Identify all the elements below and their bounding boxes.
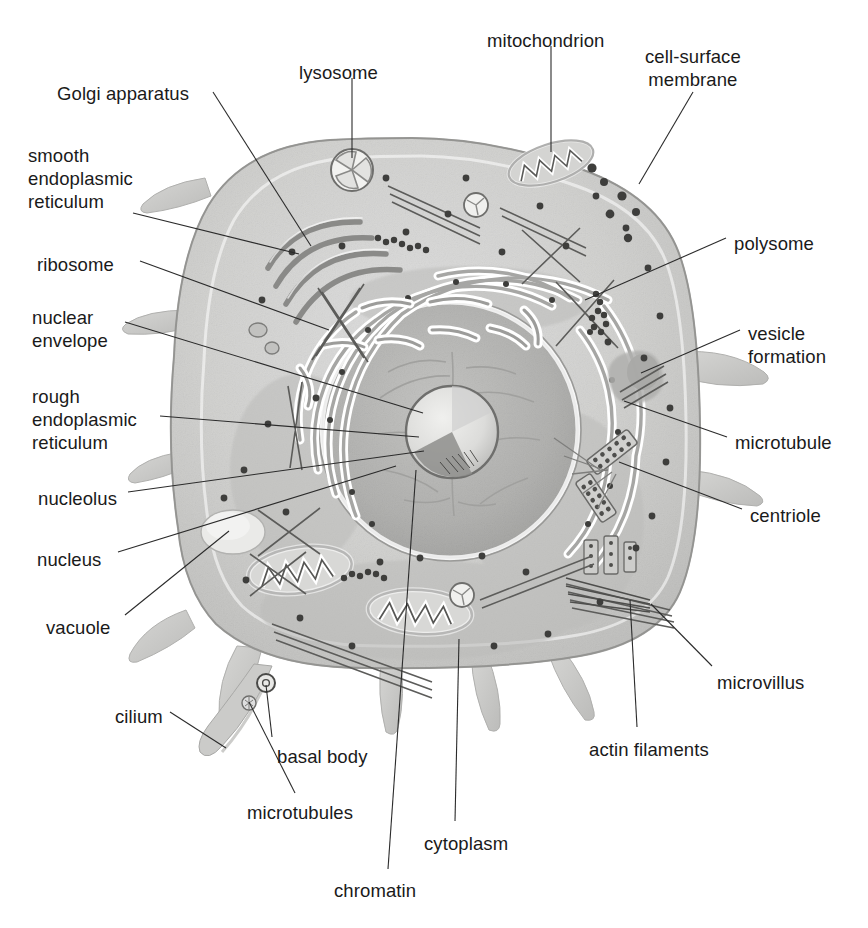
label-chromatin: chromatin xyxy=(334,879,416,902)
leader-cell-surface xyxy=(639,92,693,184)
cell-diagram-figure: a p t i g xyxy=(0,0,868,928)
leader-basal-body xyxy=(266,685,272,737)
label-cytoplasm: cytoplasm xyxy=(424,832,508,855)
label-cilium: cilium xyxy=(115,705,163,728)
label-actin-filaments: actin filaments xyxy=(589,738,709,761)
label-rough-er: rough endoplasmic reticulum xyxy=(32,385,137,454)
label-vacuole: vacuole xyxy=(46,616,110,639)
label-nucleus: nucleus xyxy=(37,548,101,571)
cell-illustration xyxy=(0,0,868,928)
label-polysome: polysome xyxy=(734,232,814,255)
label-microtubules: microtubules xyxy=(247,801,353,824)
label-mitochondrion: mitochondrion xyxy=(487,29,605,52)
label-lysosome: lysosome xyxy=(299,61,378,84)
label-vesicle-formation: vesicle formation xyxy=(748,322,826,368)
leader-microvillus xyxy=(651,604,712,666)
label-microtubule: microtubule xyxy=(735,431,832,454)
label-cell-surface-membrane: cell-surface membrane xyxy=(645,45,741,91)
label-basal-body: basal body xyxy=(277,745,367,768)
label-golgi-apparatus: Golgi apparatus xyxy=(57,82,189,105)
label-microvillus: microvillus xyxy=(717,671,804,694)
vesicle-formation xyxy=(608,351,663,404)
label-ribosome: ribosome xyxy=(37,253,114,276)
label-centriole: centriole xyxy=(750,504,821,527)
label-nucleolus: nucleolus xyxy=(38,487,117,510)
label-nuclear-envelope: nuclear envelope xyxy=(32,306,108,352)
label-smooth-er: smooth endoplasmic reticulum xyxy=(28,144,133,213)
